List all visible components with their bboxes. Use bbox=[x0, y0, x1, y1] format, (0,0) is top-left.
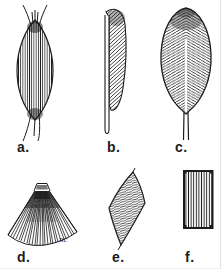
artist-signature: nc bbox=[59, 236, 68, 244]
unipennate-drawing bbox=[96, 6, 136, 136]
figure-fusiform-muscle bbox=[13, 4, 57, 142]
illustration-page: a. b. bbox=[0, 0, 221, 269]
figure-unipennate-muscle bbox=[96, 6, 136, 136]
fusiform-spindle-drawing bbox=[13, 4, 57, 142]
figure-label-d: d. bbox=[17, 250, 30, 264]
figure-bipennate-muscle bbox=[156, 4, 216, 142]
figure-label-a: a. bbox=[17, 140, 30, 154]
figure-label-c: c. bbox=[175, 140, 188, 154]
figure-rhomboid-muscle bbox=[102, 167, 148, 251]
figure-label-b: b. bbox=[107, 140, 120, 154]
figure-label-f: f. bbox=[185, 250, 195, 264]
rhomboid-drawing bbox=[102, 167, 148, 251]
figure-quadrate-muscle bbox=[182, 168, 216, 232]
quadrate-drawing bbox=[182, 168, 216, 232]
fan-drawing: nc bbox=[3, 182, 88, 248]
bipennate-drawing bbox=[156, 4, 216, 142]
figure-fan-muscle: nc bbox=[3, 182, 88, 248]
figure-label-e: e. bbox=[112, 250, 125, 264]
